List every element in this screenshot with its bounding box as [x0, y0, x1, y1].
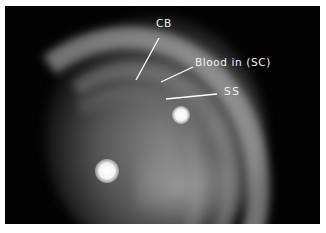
label-ss: SS — [224, 85, 240, 97]
leader-lines — [0, 0, 326, 233]
label-blood-in-sc: Blood in (SC) — [195, 56, 271, 68]
blood-leader-line — [161, 67, 193, 82]
cb-leader-line — [136, 38, 159, 80]
ss-leader-line — [166, 94, 217, 99]
label-cb: CB — [156, 17, 172, 29]
